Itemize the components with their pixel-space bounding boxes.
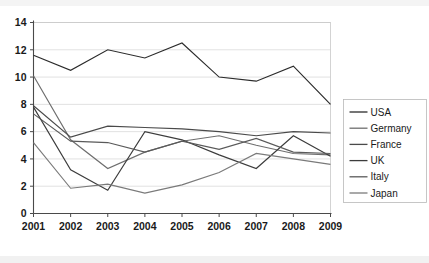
series-line-france	[34, 106, 331, 137]
legend-label-germany: Germany	[371, 123, 412, 134]
series-line-japan	[34, 143, 331, 193]
line-chart: 02468101214 2001200220032004200520062007…	[0, 0, 429, 263]
x-axis-label-2004: 2004	[133, 220, 157, 232]
x-axis-label-2002: 2002	[59, 220, 83, 232]
y-axis-label-4: 4	[21, 153, 27, 165]
x-axis	[34, 214, 332, 218]
y-axis-label-10: 10	[15, 71, 27, 83]
series-line-italy	[34, 114, 331, 154]
legend-label-uk: UK	[371, 155, 385, 166]
y-axis-label-14: 14	[15, 16, 27, 28]
series-line-usa	[34, 43, 331, 104]
x-axis-label-2007: 2007	[245, 220, 269, 232]
series-line-germany	[34, 76, 331, 169]
y-axis-label-2: 2	[21, 180, 27, 192]
x-axis-label-2005: 2005	[170, 220, 194, 232]
y-axis-label-8: 8	[21, 98, 27, 110]
series-line-uk	[34, 107, 331, 190]
x-axis-label-2003: 2003	[96, 220, 120, 232]
x-axis-label-2001: 2001	[22, 220, 46, 232]
y-axis	[30, 21, 34, 214]
y-axis-label-6: 6	[21, 125, 27, 137]
y-axis-tick-labels: 02468101214	[15, 16, 27, 219]
x-axis-label-2006: 2006	[207, 220, 231, 232]
chart-legend: USAGermanyFranceUKItalyJapan	[344, 100, 427, 203]
x-axis-label-2008: 2008	[282, 220, 306, 232]
y-axis-label-0: 0	[21, 207, 27, 219]
y-axis-label-12: 12	[15, 44, 27, 56]
legend-label-italy: Italy	[371, 171, 389, 182]
legend-label-france: France	[371, 139, 403, 150]
legend-label-japan: Japan	[371, 188, 398, 199]
x-axis-label-2009: 2009	[319, 220, 343, 232]
legend-label-usa: USA	[371, 107, 392, 118]
x-axis-tick-labels: 200120022003200420052006200720082009	[22, 220, 343, 232]
data-series-lines	[34, 43, 331, 193]
chart-canvas: 02468101214 2001200220032004200520062007…	[0, 0, 429, 263]
